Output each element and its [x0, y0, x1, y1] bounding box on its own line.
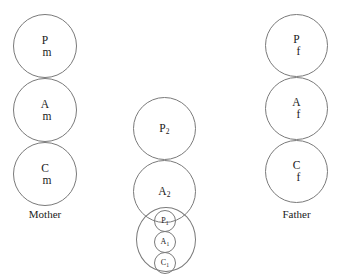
ego-state-label-parent-2: P2: [159, 122, 170, 136]
ego-state-label-primary: C: [293, 159, 301, 171]
ego-state-label-primary: A: [292, 96, 300, 108]
ego-state-label-primary: P: [42, 34, 48, 46]
ego-state-circle-parent-1: P1: [154, 210, 176, 232]
ego-state-label-primary: P: [293, 33, 299, 45]
column-caption-father: Father: [265, 208, 328, 221]
diagram-canvas: P m A m C m Mother P2 A2 P1 A1 C1 P f A …: [0, 0, 347, 279]
ego-state-label-secondary: m: [39, 174, 52, 187]
ego-state-label-child-1: C1: [161, 259, 170, 267]
ego-state-label-secondary: m: [39, 46, 52, 59]
ego-state-label-secondary: f: [293, 108, 301, 121]
ego-state-circle-child-1: C1: [154, 252, 176, 274]
ego-state-circle-adult-mother: A m: [13, 78, 77, 142]
ego-state-circle-child-mother: C m: [13, 142, 77, 206]
ego-state-circle-parent-mother: P m: [13, 14, 77, 78]
ego-state-label-adult-1: A1: [161, 238, 170, 246]
ego-state-label-primary: A: [41, 98, 49, 110]
ego-state-circle-parent-father: P f: [265, 14, 328, 77]
ego-state-circle-adult-father: A f: [265, 77, 328, 140]
ego-state-label-secondary: m: [39, 110, 52, 123]
ego-state-label-parent-1: P1: [161, 217, 169, 225]
column-caption-mother: Mother: [13, 208, 77, 221]
ego-state-label-secondary: f: [293, 45, 301, 58]
ego-state-circle-child-father: C f: [265, 140, 328, 203]
ego-state-label-adult-2: A2: [158, 185, 170, 199]
ego-state-label-secondary: f: [293, 171, 301, 184]
ego-state-circle-parent-2: P2: [133, 97, 196, 160]
ego-state-label-primary: C: [41, 162, 49, 174]
ego-state-circle-adult-1: A1: [154, 231, 176, 253]
